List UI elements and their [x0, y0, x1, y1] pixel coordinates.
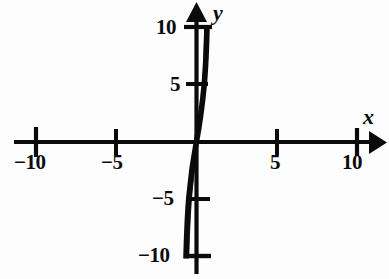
y-tick-label-neg5: −5 [152, 188, 173, 209]
y-tick-label-5: 5 [170, 74, 180, 95]
x-axis-arrowhead [369, 131, 387, 154]
graph-figure: −10 −5 5 10 10 5 −5 −10 x y [0, 0, 389, 279]
y-axis-arrowhead [186, 2, 207, 22]
x-axis-label: x [363, 106, 374, 128]
x-tick-label-10: 10 [342, 152, 362, 173]
x-tick-label-5: 5 [270, 152, 280, 173]
y-tick-label-neg10: −10 [138, 245, 169, 266]
coordinate-plot [0, 0, 389, 279]
y-axis-label: y [213, 2, 223, 24]
y-tick-label-10: 10 [156, 17, 176, 38]
x-tick-label-neg5: −5 [101, 152, 122, 173]
x-tick-label-neg10: −10 [14, 152, 45, 173]
